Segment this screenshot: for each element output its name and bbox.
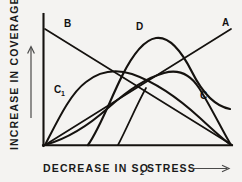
curve-label-b: B [64,18,71,29]
curve-d-path [88,38,230,145]
y-axis-title: INCREASE IN COVERAGE [8,0,20,150]
curve-label-c1: C 1 [54,84,65,97]
curve-label-a: A [222,17,229,28]
x-axis-title-tail: STRESS [147,162,196,174]
chart-canvas: B D A C C 1 INCREASE IN COVERAGE DECREAS… [0,0,242,182]
figure-container: B D A C C 1 INCREASE IN COVERAGE DECREAS… [0,0,242,182]
curve-c-path [45,72,231,145]
y-axis-direction-arrow [28,47,35,119]
x-axis-title-group: DECREASE IN SO 2 STRESS [43,162,229,177]
x-axis-direction-arrow [192,165,229,171]
x-axis-title-subscript: 2 [140,168,144,177]
curve-label-c: C [200,90,207,101]
curve-label-c1-subscript: 1 [61,90,65,97]
x-axis-title-main: DECREASE IN SO [43,162,149,174]
curve-label-d: D [136,21,143,32]
